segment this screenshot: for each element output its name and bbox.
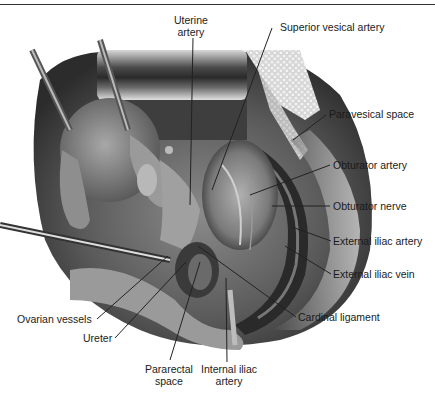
label-ovarian-vessels: Ovarian vessels	[17, 313, 92, 325]
label-external-iliac-artery: External iliac artery	[333, 235, 422, 247]
label-line: Uterine	[174, 14, 208, 26]
label-line: Internal iliac	[201, 363, 257, 375]
label-internal-iliac-artery: Internal iliac artery	[201, 363, 257, 387]
label-ureter: Ureter	[83, 332, 112, 344]
label-uterine-artery: Uterine artery	[174, 14, 208, 38]
label-line: artery	[174, 26, 208, 38]
label-superior-vesical-artery: Superior vesical artery	[280, 21, 384, 33]
label-paravesical-space: Paravesical space	[329, 108, 414, 120]
label-cardinal-ligament: Cardinal ligament	[298, 311, 380, 323]
label-external-iliac-vein: External iliac vein	[333, 268, 415, 280]
label-line: Pararectal	[145, 363, 193, 375]
label-obturator-nerve: Obturator nerve	[333, 200, 407, 212]
anatomical-illustration	[0, 0, 435, 393]
label-obturator-artery: Obturator artery	[333, 159, 407, 171]
label-line: artery	[201, 375, 257, 387]
label-pararectal-space: Pararectal space	[145, 363, 193, 387]
label-line: space	[145, 375, 193, 387]
